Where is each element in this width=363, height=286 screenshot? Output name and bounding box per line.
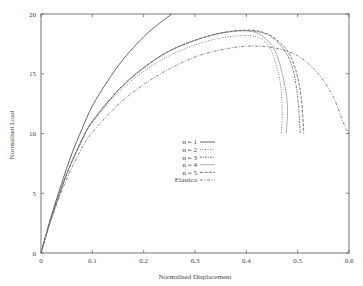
chart-canvas: 00.10.20.30.40.50.605101520 n = 1n = 2n … — [0, 0, 363, 286]
series-line-n1 — [41, 14, 172, 253]
y-axis-label: Normalised Load — [8, 110, 16, 159]
series-line-n3 — [41, 31, 300, 253]
x-tick-label: 0.6 — [345, 257, 354, 265]
y-tick-label: 20 — [29, 11, 37, 19]
x-tick-label: 0.4 — [242, 257, 251, 265]
series-line-n2 — [41, 35, 282, 253]
plot-frame — [41, 14, 349, 253]
x-tick-label: 0 — [39, 257, 43, 265]
y-tick-label: 0 — [33, 250, 37, 258]
legend-label: Elastica — [175, 176, 198, 184]
y-tick-label: 10 — [29, 130, 37, 138]
x-tick-label: 0.1 — [88, 257, 97, 265]
x-tick-label: 0.2 — [139, 257, 148, 265]
x-tick-label: 0.5 — [293, 257, 302, 265]
legend: n = 1n = 2n = 3n = 4n = 5Elastica — [175, 138, 215, 184]
y-tick-label: 5 — [33, 190, 37, 198]
series-line-n5 — [41, 30, 304, 253]
x-tick-label: 0.3 — [191, 257, 200, 265]
y-tick-label: 15 — [29, 70, 37, 78]
series-layer — [41, 14, 349, 253]
x-axis-label: Normalised Displacement — [159, 273, 232, 281]
series-line-n4 — [41, 31, 288, 253]
